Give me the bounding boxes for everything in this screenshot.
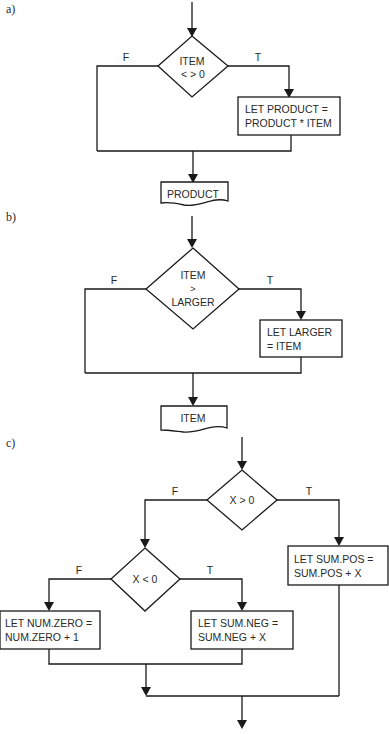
- arrowhead-icon: [44, 602, 54, 611]
- process-box-sum-pos: [288, 546, 388, 585]
- outer-true-branch-label: T: [306, 485, 313, 497]
- process-text-line1: LET LARGER: [267, 326, 333, 338]
- process-text-line1: LET SUM.NEG =: [198, 617, 278, 629]
- decision-text: X > 0: [230, 494, 255, 506]
- arrowhead-icon: [237, 461, 247, 470]
- decision-text-line1: ITEM: [180, 269, 205, 281]
- output-text: ITEM: [180, 412, 205, 424]
- part-label-c: c): [6, 436, 15, 450]
- arrowhead-icon: [334, 537, 344, 546]
- decision-text: X < 0: [133, 573, 158, 585]
- process-text-line1: LET NUM.ZERO =: [5, 617, 92, 629]
- outer-false-connector: [145, 500, 207, 541]
- flowchart-a: a) ITEM < > 0 F T LET PRODUCT = PRODUCT …: [6, 2, 340, 205]
- outer-true-connector: [277, 500, 339, 539]
- true-branch-connector: [228, 66, 289, 91]
- false-branch-label: F: [111, 274, 117, 286]
- outer-false-branch-label: F: [172, 485, 178, 497]
- false-branch-connector: [97, 66, 158, 151]
- merge-connector: [97, 135, 291, 151]
- inner-merge-connector: [49, 649, 242, 664]
- decision-text-line2: < > 0: [181, 68, 205, 80]
- true-branch-label: T: [255, 51, 262, 63]
- process-text-line1: LET PRODUCT =: [245, 103, 328, 115]
- output-text: PRODUCT: [167, 188, 220, 200]
- decision-text-line1: ITEM: [179, 55, 204, 67]
- arrowhead-icon: [237, 720, 247, 729]
- inner-false-branch-label: F: [76, 564, 82, 576]
- inner-false-connector: [49, 579, 111, 604]
- decision-text-line2: >: [190, 284, 195, 294]
- process-text-line2: PRODUCT * ITEM: [245, 117, 332, 129]
- arrowhead-icon: [141, 687, 151, 696]
- arrowhead-icon: [140, 539, 150, 548]
- process-text-line2: = ITEM: [267, 340, 301, 352]
- process-text-line2: NUM.ZERO + 1: [5, 631, 79, 643]
- process-text-line2: SUM.NEG + X: [198, 631, 266, 643]
- false-branch-connector: [85, 289, 146, 373]
- part-label-b: b): [6, 210, 16, 224]
- arrowhead-icon: [187, 239, 197, 248]
- merge-connector: [85, 357, 301, 373]
- arrowhead-icon: [188, 397, 198, 406]
- arrowhead-icon: [237, 602, 247, 611]
- inner-true-branch-label: T: [207, 564, 214, 576]
- arrowhead-icon: [296, 311, 306, 320]
- decision-text-line3: LARGER: [171, 296, 215, 308]
- process-text-line1: LET SUM.POS =: [294, 553, 373, 565]
- process-text-line2: SUM.POS + X: [294, 567, 361, 579]
- false-branch-label: F: [123, 51, 129, 63]
- flowchart-canvas: a) ITEM < > 0 F T LET PRODUCT = PRODUCT …: [0, 0, 389, 734]
- true-branch-label: T: [267, 274, 274, 286]
- flowchart-c: c) X > 0 F T LET SUM.POS = SUM.POS + X X…: [0, 436, 388, 729]
- inner-true-connector: [180, 579, 242, 604]
- part-label-a: a): [6, 2, 15, 16]
- flowchart-b: b) ITEM > LARGER F T LET LARGER = ITEM I…: [6, 210, 342, 432]
- true-branch-connector: [239, 289, 301, 313]
